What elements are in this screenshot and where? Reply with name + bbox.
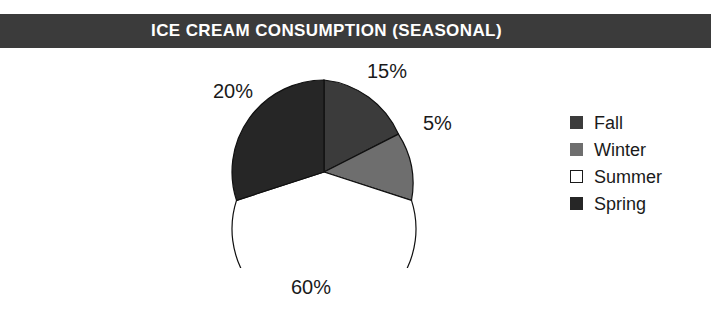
chart-figure: ICE CREAM CONSUMPTION (SEASONAL) 15% 5% … <box>0 0 727 312</box>
page-title: ICE CREAM CONSUMPTION (SEASONAL) <box>151 21 502 41</box>
pie-chart <box>228 76 420 268</box>
legend-item-spring: Spring <box>570 190 710 217</box>
data-label-winter: 5% <box>423 112 452 135</box>
legend-swatch-winter-icon <box>570 143 583 156</box>
legend-item-fall: Fall <box>570 109 710 136</box>
chart-title-banner: ICE CREAM CONSUMPTION (SEASONAL) <box>0 14 711 48</box>
legend-label-winter: Winter <box>594 141 646 159</box>
data-label-spring: 20% <box>213 80 253 103</box>
data-label-fall: 15% <box>367 60 407 83</box>
data-label-summer: 60% <box>291 276 331 299</box>
legend-label-spring: Spring <box>594 195 646 213</box>
chart-legend: Fall Winter Summer Spring <box>570 109 710 217</box>
legend-item-summer: Summer <box>570 163 710 190</box>
legend-item-winter: Winter <box>570 136 710 163</box>
pie-chart-svg <box>228 76 420 268</box>
legend-label-fall: Fall <box>594 114 623 132</box>
legend-swatch-fall-icon <box>570 116 583 129</box>
legend-label-summer: Summer <box>594 168 662 186</box>
legend-swatch-summer-icon <box>570 170 583 183</box>
legend-swatch-spring-icon <box>570 197 583 210</box>
